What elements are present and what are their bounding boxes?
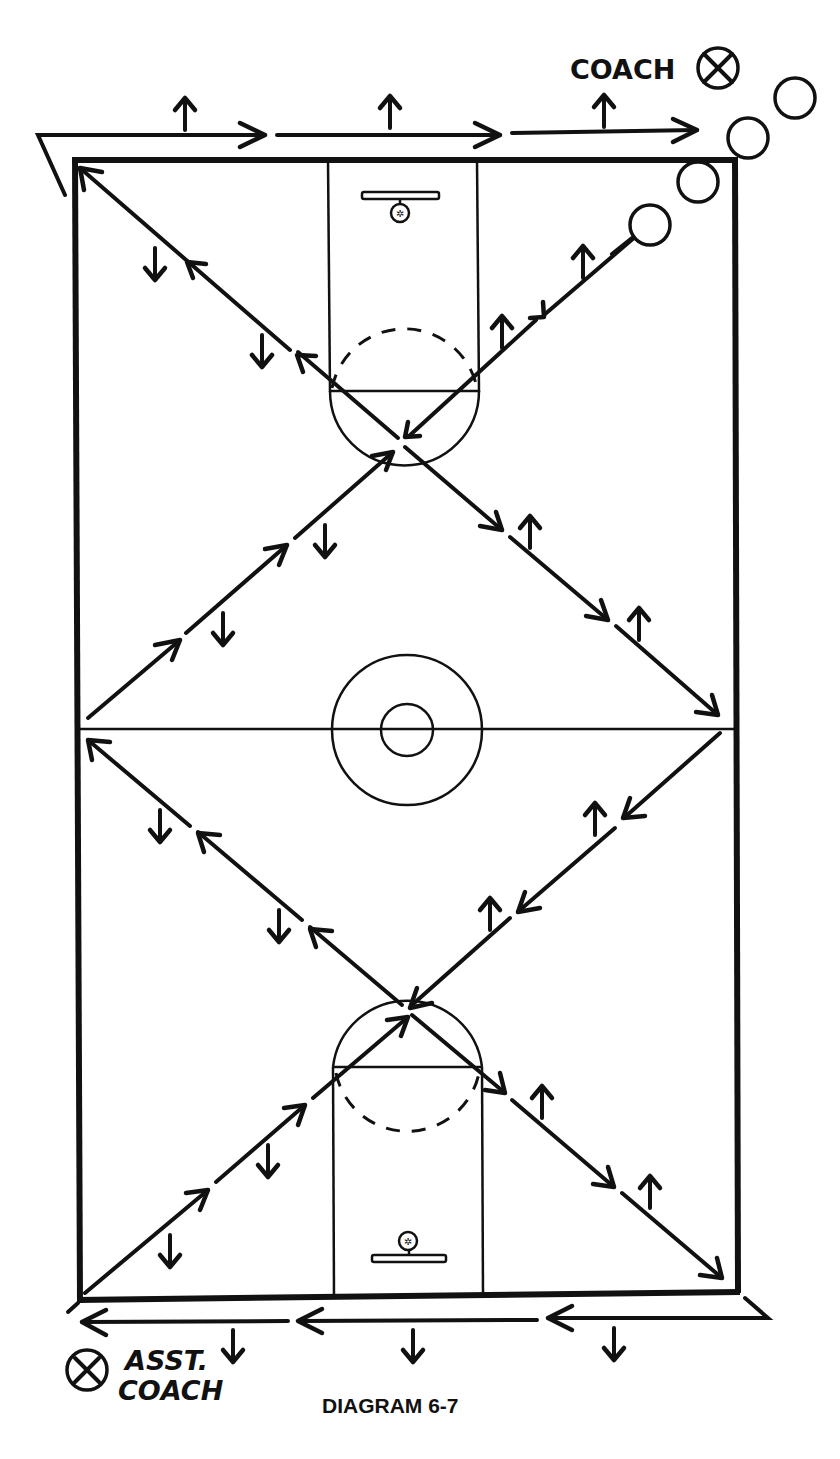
player-1: [630, 205, 670, 245]
player-3: [728, 118, 768, 158]
players: [612, 78, 815, 254]
coach-label: COACH: [570, 54, 675, 85]
diagonal-right-mid-to-bottom: [410, 733, 720, 1008]
top-run-path: [38, 95, 697, 195]
coach-x-circle-icon: [698, 48, 738, 88]
court-diagram: ✲ ✲: [0, 0, 840, 1459]
diagonal-bottom-to-left-mid: [88, 740, 402, 1005]
diagonal-bottom-left-to-key: [85, 1017, 408, 1293]
asst-coach-marker: ASST. COACH: [67, 1345, 224, 1406]
asst-coach-label-line1: ASST.: [123, 1345, 208, 1376]
coach-marker: COACH: [570, 48, 738, 88]
diagonal-top-to-right-mid: [405, 447, 718, 715]
player-2: [678, 162, 718, 202]
diagonal-top-left: [80, 168, 398, 438]
top-basket-icon: ✲: [362, 192, 439, 222]
diagonal-left-mid-to-top: [88, 452, 393, 718]
asst-coach-label-line2: COACH: [118, 1375, 224, 1406]
svg-text:✲: ✲: [404, 1236, 412, 1247]
diagonal-key-to-bottom-right: [412, 1015, 722, 1278]
bottom-basket-icon: ✲: [372, 1232, 446, 1262]
asst-coach-x-circle-icon: [67, 1350, 107, 1390]
player-4: [775, 78, 815, 118]
svg-text:✲: ✲: [396, 208, 404, 219]
diagram-caption: DIAGRAM 6-7: [322, 1394, 459, 1417]
